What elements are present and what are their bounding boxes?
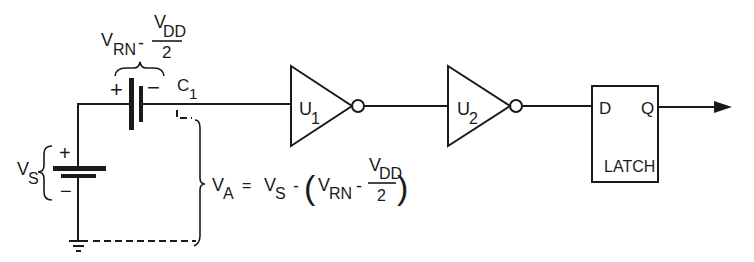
- vs-term-subscript: S: [275, 185, 286, 202]
- latch-d-input-label: D: [599, 99, 611, 118]
- latch: D Q LATCH: [592, 86, 658, 182]
- va-measurement-path: [93, 110, 205, 246]
- output-arrow-icon: [714, 101, 732, 113]
- close-paren: ): [397, 168, 408, 206]
- va-subscript: A: [223, 185, 234, 202]
- circuit-diagram: + − C 1 V RN - V DD 2 + − V S V A: [0, 0, 754, 262]
- vdd-subscript: DD: [163, 23, 186, 40]
- inverter-label-subscript: 2: [469, 110, 478, 127]
- capacitor-voltage-brace: [115, 62, 164, 76]
- battery-plus-sign: +: [59, 142, 71, 164]
- capacitor-c1: + − C 1: [110, 75, 197, 130]
- fraction-denominator: 2: [162, 43, 171, 62]
- capacitor-long-plate: [129, 78, 134, 130]
- fraction-denominator: 2: [377, 187, 386, 204]
- dashed-node-tap: [177, 110, 192, 118]
- latch-q-output-label: Q: [641, 99, 654, 118]
- inverter-u2: U 2: [448, 66, 522, 146]
- capacitor-short-plate: [139, 86, 143, 122]
- inverter-u1: U 1: [291, 66, 364, 146]
- capacitor-minus-sign: −: [147, 75, 160, 100]
- va-equation: V A = V S - ( V RN - V DD 2 ): [212, 155, 408, 206]
- open-paren: (: [304, 168, 316, 206]
- minus-operator: -: [293, 176, 299, 196]
- va-brace: [194, 120, 205, 246]
- battery-vs: + − V S: [17, 142, 106, 202]
- capacitor-plus-sign: +: [110, 77, 123, 102]
- minus-operator: -: [138, 33, 144, 53]
- inverter-label-subscript: 1: [311, 110, 320, 127]
- vrn-symbol: V: [101, 30, 113, 50]
- equals-sign: =: [242, 177, 251, 194]
- latch-name-label: LATCH: [604, 158, 655, 175]
- battery-minus-sign: −: [60, 180, 72, 202]
- capacitor-label: C: [177, 76, 189, 95]
- capacitor-voltage-expression: V RN - V DD 2: [101, 12, 186, 62]
- battery-long-plate: [53, 166, 106, 171]
- inner-minus-operator: -: [356, 176, 362, 196]
- vrn-term-subscript: RN: [329, 185, 352, 202]
- vs-subscript: S: [28, 170, 39, 187]
- capacitor-label-subscript: 1: [189, 85, 197, 102]
- battery-voltage-brace: [38, 146, 52, 200]
- battery-short-plate: [61, 174, 96, 178]
- ground-icon: [69, 241, 88, 251]
- vrn-subscript: RN: [113, 41, 136, 58]
